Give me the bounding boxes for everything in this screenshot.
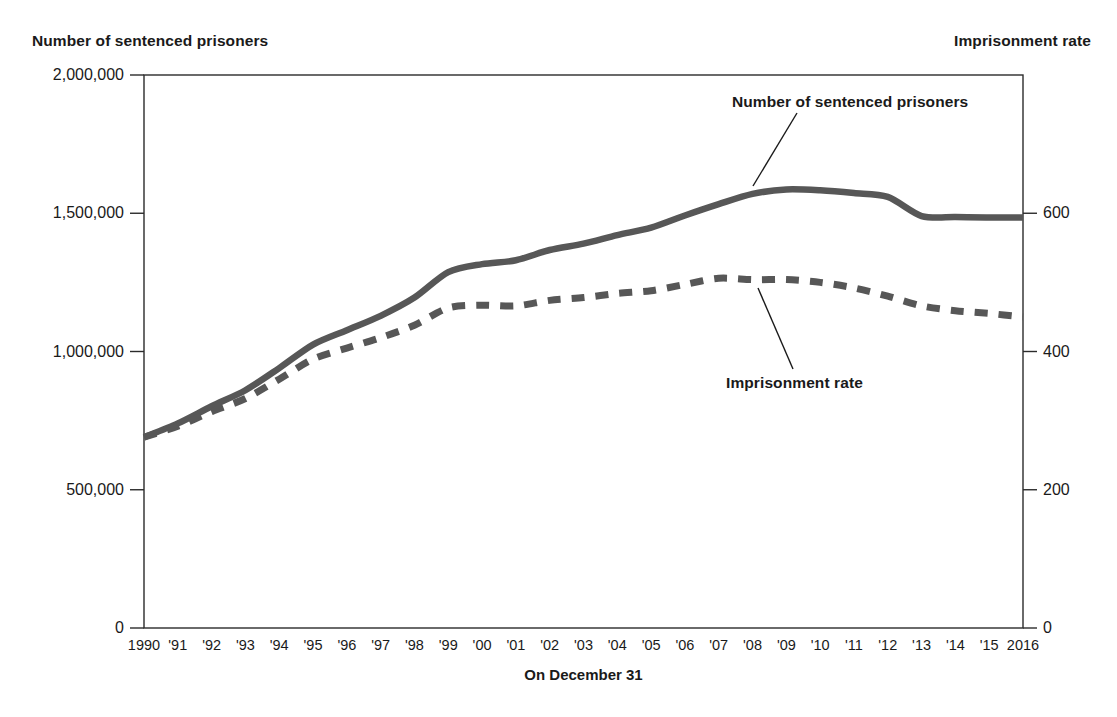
right-tick-label: 600 — [1043, 205, 1070, 221]
x-axis-title: On December 31 — [144, 666, 1023, 683]
left-tick-label: 1,000,000 — [53, 344, 124, 360]
annotation-leader-lines — [753, 113, 797, 369]
x-tick-label: 2016 — [998, 638, 1048, 653]
chart-figure: Number of sentenced prisoners Imprisonme… — [0, 0, 1117, 717]
left-tick-label: 500,000 — [66, 482, 124, 498]
right-tick-label: 0 — [1043, 620, 1052, 636]
right-axis-title: Imprisonment rate — [954, 32, 1091, 50]
leader-line-imprisonment-rate — [758, 288, 793, 369]
plot-frame — [144, 75, 1023, 628]
left-axis-title: Number of sentenced prisoners — [32, 32, 268, 50]
left-tick-label: 0 — [115, 620, 124, 636]
left-axis-ticks — [130, 75, 144, 628]
data-series-group — [144, 189, 1023, 437]
left-tick-label: 1,500,000 — [53, 205, 124, 221]
leader-line-sentenced-prisoners — [753, 113, 797, 186]
annotation-number-of-sentenced-prisoners: Number of sentenced prisoners — [732, 93, 968, 111]
right-tick-label: 200 — [1043, 482, 1070, 498]
left-tick-label: 2,000,000 — [53, 67, 124, 83]
annotation-imprisonment-rate: Imprisonment rate — [726, 374, 863, 392]
series-line-sentenced-prisoners — [144, 189, 1023, 437]
right-tick-label: 400 — [1043, 344, 1070, 360]
series-line-imprisonment-rate — [144, 278, 1023, 437]
right-axis-ticks — [1023, 213, 1037, 628]
